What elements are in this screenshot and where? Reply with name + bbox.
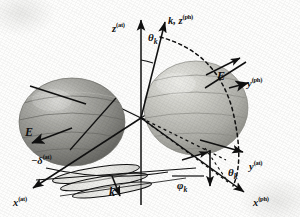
sphere-atomic bbox=[19, 78, 125, 166]
axis-label-y-at: y(at) bbox=[249, 160, 262, 172]
angle-label-theta-k-top: θk bbox=[148, 32, 158, 46]
axis-label-k-z-ph: k, z(ph) bbox=[168, 14, 193, 26]
angle-label-theta-k-bottom: θk bbox=[228, 167, 238, 181]
axis-label-y-ph: y(ph) bbox=[247, 77, 262, 89]
dashed-connector bbox=[205, 148, 228, 182]
axis-label-z-at: z(at) bbox=[112, 22, 125, 34]
phase-label-delta-at: −δ(at) bbox=[31, 154, 51, 166]
axis-label-x-ph: x(ph) bbox=[253, 196, 269, 208]
vector-label-E-right: E bbox=[217, 70, 225, 82]
angle-label-phi-k: φk bbox=[177, 180, 187, 194]
figure-canvas: z(at) k, z(ph) y(ph) y(at) x(ph) x(at) E… bbox=[0, 0, 300, 217]
vector-label-E-left: E bbox=[25, 126, 33, 138]
axis-label-x-at: x(at) bbox=[13, 196, 27, 208]
angle-arc-theta-k-top bbox=[141, 60, 153, 63]
vector-label-k-lower: k bbox=[109, 186, 115, 198]
